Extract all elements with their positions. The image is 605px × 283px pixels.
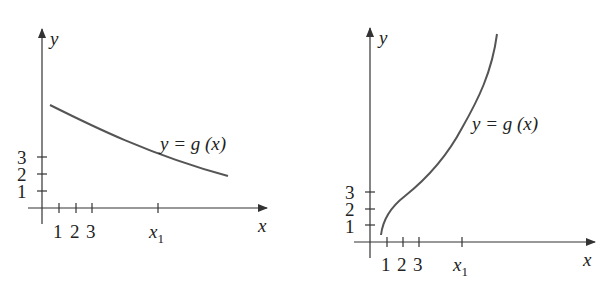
left-x-tick-label-2: 2: [70, 221, 80, 242]
left-graph: y x 3 2 1 1 2 3 x1 y = g (x): [17, 28, 267, 246]
right-curve: [381, 34, 497, 235]
right-x-tick-label-1: 1: [381, 254, 391, 275]
left-x-axis-label: x: [257, 215, 267, 236]
right-x-tick-label-3: 3: [413, 254, 423, 275]
right-y-axis-label: y: [377, 27, 388, 48]
figure: y x 3 2 1 1 2 3 x1 y = g (x) y x 3 2 1 1: [0, 0, 605, 283]
right-x-tick-label-2: 2: [397, 254, 407, 275]
left-curve-label: y = g (x): [158, 133, 226, 155]
right-x-axis-label: x: [582, 249, 592, 270]
left-y-axis-label: y: [48, 28, 59, 49]
left-y-tick-label-1: 1: [17, 181, 27, 202]
left-x-tick-label-3: 3: [86, 221, 96, 242]
left-x-tick-label-1: 1: [53, 221, 63, 242]
right-curve-label: y = g (x): [470, 113, 538, 135]
right-x-tick-label-x1: x1: [452, 254, 468, 279]
right-y-tick-label-1: 1: [345, 216, 355, 237]
right-graph: y x 3 2 1 1 2 3 x1 y = g (x): [345, 27, 595, 279]
left-x-tick-label-x1: x1: [148, 221, 164, 246]
